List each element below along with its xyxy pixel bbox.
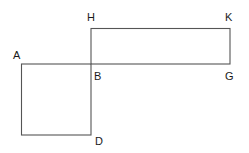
- label-d: D: [95, 135, 103, 147]
- geometry-diagram: A B D H K G: [0, 0, 249, 153]
- rectangle-shape: [91, 29, 230, 65]
- square-shape: [22, 64, 92, 135]
- label-g: G: [225, 70, 234, 82]
- label-k: K: [225, 11, 233, 23]
- label-b: B: [94, 70, 101, 82]
- label-h: H: [87, 11, 95, 23]
- label-a: A: [13, 49, 21, 61]
